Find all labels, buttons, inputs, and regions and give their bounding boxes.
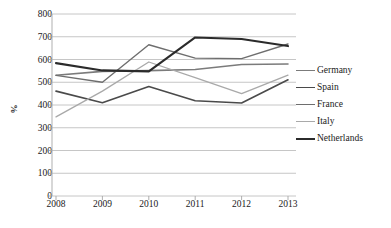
legend-item-label: Netherlands: [317, 133, 363, 144]
legend-item-germany[interactable]: Germany: [296, 62, 391, 79]
legend-item-netherlands[interactable]: Netherlands: [296, 130, 391, 147]
legend-line-swatch-icon: [296, 138, 315, 140]
legend-line-swatch-icon: [296, 121, 315, 122]
x-axis-tick-label: 2012: [222, 198, 262, 210]
plot-area: % 8007006005004003002001000 200820092010…: [0, 0, 300, 228]
line-chart: % 8007006005004003002001000 200820092010…: [0, 0, 391, 228]
chart-legend: GermanySpainFranceItalyNetherlands: [296, 62, 391, 147]
legend-item-italy[interactable]: Italy: [296, 113, 391, 130]
legend-item-france[interactable]: France: [296, 96, 391, 113]
legend-item-label: Italy: [317, 116, 334, 127]
x-axis-tick-label: 2008: [36, 198, 76, 210]
x-axis-tick-label: 2011: [175, 198, 215, 210]
x-axis-tick-labels: 200820092010201120122013: [56, 198, 288, 214]
series-line-spain: [56, 80, 288, 103]
legend-line-swatch-icon: [296, 87, 315, 88]
legend-item-label: Spain: [317, 82, 339, 93]
series-line-italy: [56, 62, 288, 117]
legend-line-swatch-icon: [296, 104, 315, 105]
legend-item-spain[interactable]: Spain: [296, 79, 391, 96]
axis-lines: [49, 14, 288, 200]
plot-canvas: [0, 0, 300, 228]
legend-item-label: France: [317, 99, 343, 110]
legend-line-swatch-icon: [296, 70, 315, 71]
series-line-france: [56, 44, 288, 82]
x-axis-tick-label: 2010: [129, 198, 169, 210]
legend-item-label: Germany: [317, 65, 352, 76]
x-axis-tick-label: 2013: [268, 198, 308, 210]
x-axis-tick-label: 2009: [82, 198, 122, 210]
